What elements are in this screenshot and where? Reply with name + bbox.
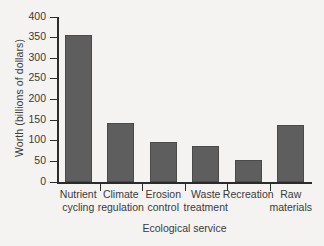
- y-axis-tick-label: 350: [28, 30, 46, 42]
- x-axis-category-labels: NutrientcyclingClimateregulationErosionc…: [57, 188, 312, 222]
- y-axis-title: Worth (billions of dollars): [13, 13, 25, 183]
- category-label-line1: Waste: [191, 188, 220, 200]
- category-label-line1: Raw: [280, 188, 301, 200]
- category-label-line1: Climate: [103, 188, 139, 200]
- category-label-line1: Erosion: [145, 188, 181, 200]
- y-axis-tick-label: 150: [28, 113, 46, 125]
- category-label-line2: materials: [264, 201, 319, 214]
- y-axis-tick-label: 0: [40, 175, 46, 187]
- bar: [107, 123, 134, 182]
- y-axis-tick: 100: [50, 140, 57, 141]
- category-label-line1: Nutrient: [60, 188, 97, 200]
- y-axis-tick-label: 100: [28, 133, 46, 145]
- y-axis-tick: 350: [50, 37, 57, 38]
- y-axis-line: [57, 17, 59, 184]
- category-label-line2: treatment: [179, 201, 234, 214]
- y-axis-tick: 400: [50, 17, 57, 18]
- bar: [277, 125, 304, 182]
- bar: [235, 160, 262, 182]
- y-axis-tick-label: 250: [28, 71, 46, 83]
- plot-area: 050100150200250300350400: [57, 17, 312, 184]
- bar: [150, 142, 177, 182]
- y-axis-tick-label: 50: [34, 154, 46, 166]
- y-axis-tick: 0: [50, 182, 57, 183]
- y-axis-tick-label: 300: [28, 51, 46, 63]
- bar: [65, 35, 92, 182]
- y-axis-tick-label: 400: [28, 10, 46, 22]
- bar: [192, 146, 219, 182]
- y-axis-tick: 200: [50, 99, 57, 100]
- y-axis-tick-label: 200: [28, 92, 46, 104]
- y-axis-tick: 250: [50, 78, 57, 79]
- y-axis-tick: 150: [50, 120, 57, 121]
- bar-chart-figure: Worth (billions of dollars) 050100150200…: [0, 0, 324, 246]
- y-axis-tick: 50: [50, 161, 57, 162]
- x-axis-category-label: Rawmaterials: [264, 188, 319, 213]
- x-axis-title: Ecological service: [57, 222, 312, 234]
- y-axis-tick: 300: [50, 58, 57, 59]
